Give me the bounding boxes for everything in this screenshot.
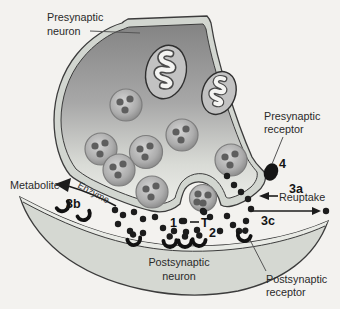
synaptic-vesicle bbox=[215, 144, 247, 176]
transmitter-molecule-dot bbox=[224, 173, 230, 179]
transmitter-molecule-dot bbox=[245, 196, 251, 202]
presynaptic-receptor-label-line2: receptor bbox=[264, 123, 304, 135]
transmitter-molecule-dot bbox=[200, 208, 206, 214]
transmitter-molecule-dot bbox=[243, 218, 249, 224]
synaptic-vesicle bbox=[130, 136, 163, 169]
transmitter-molecule-dot bbox=[194, 227, 200, 233]
transmitter-molecule-dot bbox=[224, 213, 230, 219]
synapse-figure: Presynaptic neuron Presynaptic receptor … bbox=[0, 0, 340, 309]
transmitter-molecule-dot bbox=[112, 207, 118, 213]
fused-vesicle bbox=[190, 185, 217, 212]
postsynaptic-receptor-label-line1: Postsynaptic bbox=[266, 273, 328, 285]
transmitter-molecule-dot bbox=[231, 182, 237, 188]
transmitter-molecule-dot bbox=[217, 228, 223, 234]
synaptic-vesicle bbox=[110, 89, 142, 121]
synaptic-vesicle bbox=[136, 176, 168, 208]
transmitter-molecule-dot bbox=[115, 221, 121, 227]
transmitter-molecule-dot bbox=[140, 216, 146, 222]
transmitter-label: T bbox=[201, 216, 209, 230]
step-3c-label: 3c bbox=[261, 214, 275, 228]
postsynaptic-neuron-label-line1: Postsynaptic bbox=[148, 256, 210, 268]
transmitter-molecule-dot bbox=[323, 208, 329, 214]
metabolite-label: Metabolite bbox=[10, 179, 60, 191]
postsynaptic-receptor-label-line2: receptor bbox=[266, 286, 306, 298]
presynaptic-neuron-label-line1: Presynaptic bbox=[47, 11, 104, 23]
transmitter-molecule-dot bbox=[181, 218, 187, 224]
step-3a-label: 3a bbox=[289, 182, 304, 196]
presynaptic-neuron-label-line2: neuron bbox=[47, 25, 81, 37]
transmitter-molecule-dot bbox=[131, 209, 137, 215]
postsynaptic-neuron-label-line2: neuron bbox=[162, 270, 196, 282]
step-1-label: 1 bbox=[170, 216, 177, 230]
synaptic-vesicle bbox=[166, 119, 198, 151]
transmitter-molecule-dot bbox=[160, 225, 166, 231]
step-4-label: 4 bbox=[279, 157, 286, 171]
step-3b-label: 3b bbox=[66, 197, 81, 211]
transmitter-molecule-dot bbox=[152, 214, 158, 220]
synapse-diagram: Presynaptic neuron Presynaptic receptor … bbox=[0, 0, 340, 309]
synaptic-vesicle bbox=[103, 154, 135, 186]
transmitter-molecule-dot bbox=[120, 212, 126, 218]
transmitter-molecule-dot bbox=[140, 230, 146, 236]
transmitter-molecule-dot bbox=[238, 189, 244, 195]
step-2-label: 2 bbox=[209, 226, 216, 240]
transmitter-molecule-dot bbox=[230, 222, 236, 228]
presynaptic-receptor-label-line1: Presynaptic bbox=[264, 110, 321, 122]
